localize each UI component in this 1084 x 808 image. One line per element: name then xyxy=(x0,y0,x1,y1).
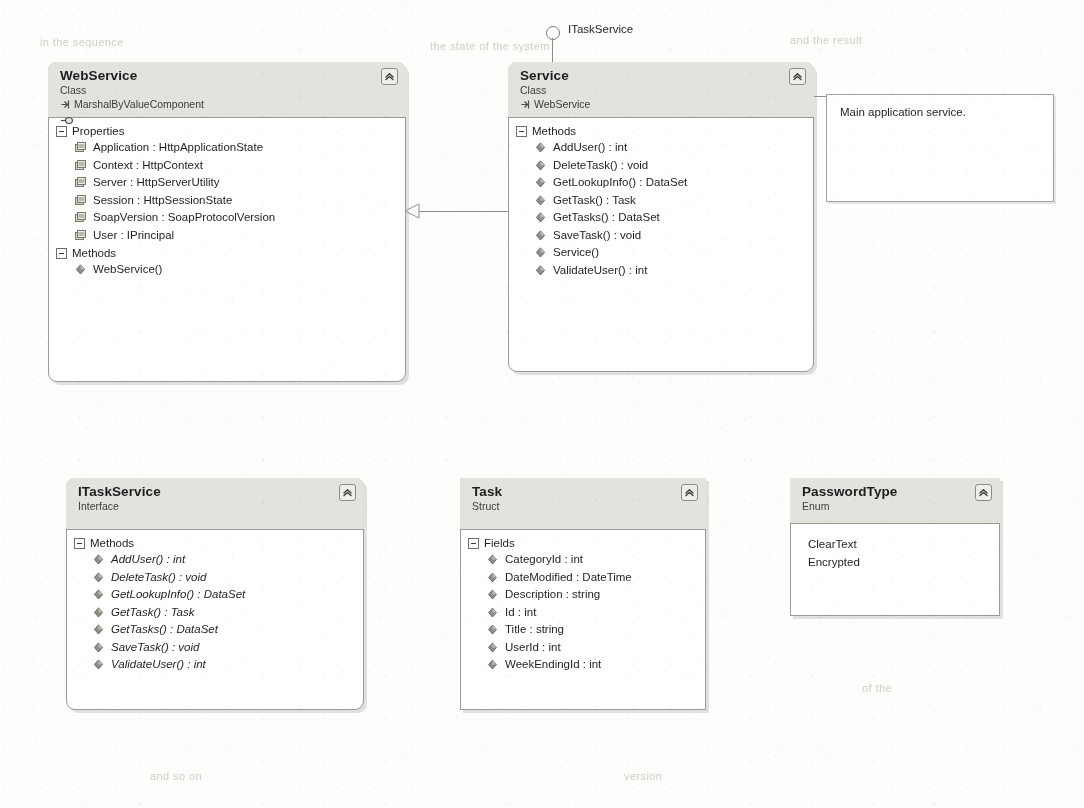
member-glyph xyxy=(534,159,547,172)
uml-class-passwordtype[interactable]: PasswordTypeEnumClearTextEncrypted xyxy=(790,478,1000,616)
uml-class-content: PropertiesApplication : HttpApplicationS… xyxy=(48,118,406,382)
uml-member-row[interactable]: GetTasks() : DataSet xyxy=(66,621,364,639)
minus-box-icon[interactable] xyxy=(56,126,67,137)
compartment-label: Fields xyxy=(484,537,515,549)
uml-member-row[interactable]: GetTask() : Task xyxy=(508,192,814,210)
member-glyph xyxy=(534,176,547,189)
method-icon xyxy=(92,571,105,584)
background-artifact: and so on xyxy=(150,770,202,782)
uml-member-row[interactable]: AddUser() : int xyxy=(508,139,814,157)
uml-member-row[interactable]: WeekEndingId : int xyxy=(460,656,706,674)
uml-member-label: WebService() xyxy=(93,261,162,279)
uml-member-row[interactable]: Session : HttpSessionState xyxy=(48,192,406,210)
method-icon xyxy=(92,658,105,671)
uml-class-content: MethodsAddUser() : intDeleteTask() : voi… xyxy=(508,118,814,372)
member-glyph xyxy=(74,194,87,207)
uml-class-name: WebService xyxy=(60,68,396,83)
background-artifact: in the sequence xyxy=(40,36,124,48)
uml-member-row[interactable]: Server : HttpServerUtility xyxy=(48,174,406,192)
uml-member-row[interactable]: GetTasks() : DataSet xyxy=(508,209,814,227)
compartment-header-properties[interactable]: Properties xyxy=(48,122,406,139)
method-icon xyxy=(534,264,547,277)
member-glyph xyxy=(74,176,87,189)
uml-member-label: GetTasks() : DataSet xyxy=(553,209,660,227)
method-icon xyxy=(92,606,105,619)
compartment-header-methods[interactable]: Methods xyxy=(48,244,406,261)
minus-box-icon[interactable] xyxy=(468,538,479,549)
uml-member-row[interactable]: GetTask() : Task xyxy=(66,604,364,622)
uml-member-row[interactable]: DateModified : DateTime xyxy=(460,569,706,587)
uml-member-row[interactable]: GetLookupInfo() : DataSet xyxy=(508,174,814,192)
uml-member-row[interactable]: Context : HttpContext xyxy=(48,157,406,175)
background-artifact: and the result xyxy=(790,34,862,46)
uml-member-label: DeleteTask() : void xyxy=(111,569,206,587)
uml-member-row[interactable]: ClearText xyxy=(790,536,1000,554)
uml-member-row[interactable]: ValidateUser() : int xyxy=(508,262,814,280)
collapse-chevron-button[interactable] xyxy=(381,68,398,85)
method-icon xyxy=(92,553,105,566)
uml-member-label: User : IPrincipal xyxy=(93,227,174,245)
uml-member-label: Title : string xyxy=(505,621,564,639)
member-glyph xyxy=(92,658,105,671)
method-icon xyxy=(74,263,87,276)
uml-member-row[interactable]: DeleteTask() : void xyxy=(66,569,364,587)
uml-member-row[interactable]: DeleteTask() : void xyxy=(508,157,814,175)
member-glyph xyxy=(486,588,499,601)
field-icon xyxy=(486,571,499,584)
member-glyph xyxy=(92,553,105,566)
member-glyph xyxy=(74,263,87,276)
member-glyph xyxy=(74,229,87,242)
method-icon xyxy=(92,641,105,654)
minus-box-icon[interactable] xyxy=(56,248,67,259)
uml-member-row[interactable]: GetLookupInfo() : DataSet xyxy=(66,586,364,604)
collapse-chevron-button[interactable] xyxy=(681,484,698,501)
uml-member-label: CategoryId : int xyxy=(505,551,583,569)
uml-member-row[interactable]: ValidateUser() : int xyxy=(66,656,364,674)
uml-member-row[interactable]: Description : string xyxy=(460,586,706,604)
uml-member-label: UserId : int xyxy=(505,639,561,657)
collapse-chevron-button[interactable] xyxy=(975,484,992,501)
member-glyph xyxy=(74,159,87,172)
member-glyph xyxy=(74,211,87,224)
compartment-spacer xyxy=(790,528,1000,536)
minus-box-icon[interactable] xyxy=(74,538,85,549)
uml-class-webservice[interactable]: WebServiceClassMarshalByValueComponentPr… xyxy=(48,62,406,382)
uml-class-stereotype: Class xyxy=(60,84,396,97)
member-glyph xyxy=(486,641,499,654)
lollipop-label: ITaskService xyxy=(568,23,633,35)
uml-member-label: GetLookupInfo() : DataSet xyxy=(111,586,245,604)
uml-class-service[interactable]: ServiceClassWebServiceMethodsAddUser() :… xyxy=(508,62,814,372)
uml-member-row[interactable]: WebService() xyxy=(48,261,406,279)
uml-class-itaskservice[interactable]: ITaskServiceInterfaceMethodsAddUser() : … xyxy=(66,478,364,710)
uml-member-row[interactable]: Application : HttpApplicationState xyxy=(48,139,406,157)
compartment-header-methods[interactable]: Methods xyxy=(508,122,814,139)
compartment-header-methods[interactable]: Methods xyxy=(66,534,364,551)
uml-member-row[interactable]: SaveTask() : void xyxy=(66,639,364,657)
uml-member-row[interactable]: UserId : int xyxy=(460,639,706,657)
uml-class-task[interactable]: TaskStructFieldsCategoryId : intDateModi… xyxy=(460,478,706,710)
uml-member-row[interactable]: Service() xyxy=(508,244,814,262)
minus-box-icon[interactable] xyxy=(516,126,527,137)
collapse-chevron-button[interactable] xyxy=(339,484,356,501)
field-icon xyxy=(486,623,499,636)
uml-member-label: Session : HttpSessionState xyxy=(93,192,232,210)
uml-member-row[interactable]: Title : string xyxy=(460,621,706,639)
property-icon xyxy=(74,229,87,242)
compartment-header-fields[interactable]: Fields xyxy=(460,534,706,551)
method-icon xyxy=(92,588,105,601)
uml-class-name: PasswordType xyxy=(802,484,990,499)
member-glyph xyxy=(534,211,547,224)
uml-member-row[interactable]: SaveTask() : void xyxy=(508,227,814,245)
uml-member-row[interactable]: Encrypted xyxy=(790,554,1000,572)
property-icon xyxy=(74,159,87,172)
member-glyph xyxy=(486,658,499,671)
member-glyph xyxy=(92,571,105,584)
uml-member-row[interactable]: User : IPrincipal xyxy=(48,227,406,245)
uml-member-label: GetTask() : Task xyxy=(111,604,195,622)
uml-class-stereotype: Struct xyxy=(472,500,696,513)
uml-member-row[interactable]: SoapVersion : SoapProtocolVersion xyxy=(48,209,406,227)
uml-member-row[interactable]: CategoryId : int xyxy=(460,551,706,569)
collapse-chevron-button[interactable] xyxy=(789,68,806,85)
uml-member-row[interactable]: AddUser() : int xyxy=(66,551,364,569)
uml-member-row[interactable]: Id : int xyxy=(460,604,706,622)
